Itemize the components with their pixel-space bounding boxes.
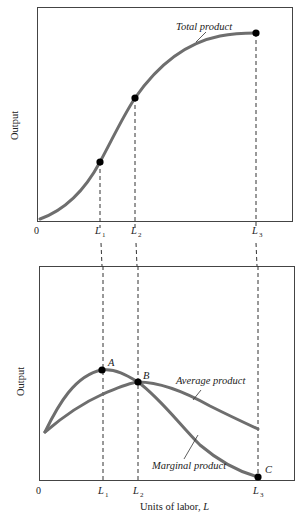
point-a	[98, 366, 105, 373]
svg-text:L: L	[130, 225, 137, 236]
total-product-label: Total product	[176, 21, 233, 32]
mp-leader-line	[184, 435, 198, 459]
bottom-ylabel: Output	[15, 367, 26, 396]
top-origin-label: 0	[34, 225, 39, 236]
guide-l2-between	[136, 243, 137, 266]
point-c	[254, 473, 261, 480]
label-a: A	[107, 357, 115, 368]
top-panel: Total product Output 0 L 1 L 2 L 3	[9, 8, 293, 240]
average-product-label: Average product	[175, 375, 246, 386]
top-tick-l3: L 3	[251, 225, 263, 239]
tp-point-l1	[96, 158, 103, 165]
svg-text:1: 1	[105, 491, 109, 499]
tp-point-l2	[131, 94, 138, 101]
label-b: B	[143, 370, 150, 381]
bottom-tick-l1: L 1	[97, 485, 109, 499]
top-plot-frame	[38, 8, 293, 222]
svg-text:L: L	[252, 485, 259, 496]
svg-text:1: 1	[102, 231, 106, 239]
production-charts: Total product Output 0 L 1 L 2 L 3	[0, 0, 308, 518]
top-tick-l2: L 2	[130, 225, 142, 239]
svg-text:L: L	[94, 225, 101, 236]
svg-text:L: L	[97, 485, 104, 496]
svg-text:3: 3	[259, 231, 263, 239]
tp-point-l3	[252, 29, 259, 36]
point-b	[134, 378, 141, 385]
bottom-tick-l3: L 3	[252, 485, 264, 499]
bottom-origin-label: 0	[36, 485, 41, 496]
label-c: C	[265, 464, 273, 475]
svg-text:2: 2	[138, 231, 142, 239]
top-ylabel: Output	[9, 111, 20, 140]
svg-text:3: 3	[260, 491, 264, 499]
svg-text:L: L	[132, 485, 139, 496]
svg-text:L: L	[251, 225, 258, 236]
bottom-xlabel: Units of labor, L	[140, 501, 209, 512]
bottom-tick-l2: L 2	[132, 485, 144, 499]
average-product-curve	[45, 382, 258, 432]
bottom-panel: A B C Average product Marginal product O…	[15, 266, 295, 512]
total-product-curve	[40, 33, 256, 219]
guide-l1-between	[101, 243, 102, 266]
bottom-plot-frame	[40, 267, 295, 481]
marginal-product-label: Marginal product	[151, 460, 227, 471]
top-tick-l1: L 1	[94, 225, 106, 239]
guide-l3-between	[256, 243, 257, 266]
svg-text:2: 2	[140, 491, 144, 499]
